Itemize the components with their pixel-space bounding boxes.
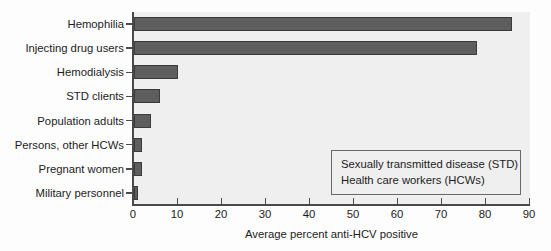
y-tick-mark bbox=[126, 72, 132, 74]
category-label: Military personnel bbox=[0, 187, 124, 199]
category-label: Hemophilia bbox=[0, 18, 124, 30]
x-tick-label: 80 bbox=[465, 208, 505, 220]
note-line-std: Sexually transmitted disease (STD) bbox=[341, 156, 512, 172]
x-tick-label: 90 bbox=[509, 208, 549, 220]
x-tick-label: 50 bbox=[333, 208, 373, 220]
bar bbox=[134, 162, 143, 176]
category-label: Population adults bbox=[0, 115, 124, 127]
bar-row: Hemodialysis bbox=[0, 60, 551, 84]
x-tick-label: 70 bbox=[421, 208, 461, 220]
category-label: Pregnant women bbox=[0, 163, 124, 175]
bar-row: Population adults bbox=[0, 109, 551, 133]
x-tick-label: 0 bbox=[113, 208, 153, 220]
x-axis-title: Average percent anti-HCV positive bbox=[133, 228, 530, 240]
category-label: Hemodialysis bbox=[0, 66, 124, 78]
category-label: Injecting drug users bbox=[0, 42, 124, 54]
x-tick-label: 20 bbox=[201, 208, 241, 220]
y-tick-mark bbox=[126, 168, 132, 170]
bar bbox=[134, 41, 477, 55]
bar bbox=[134, 138, 143, 152]
bar-row: Injecting drug users bbox=[0, 36, 551, 60]
y-tick-mark bbox=[126, 192, 132, 194]
y-tick-mark bbox=[126, 144, 132, 146]
bar bbox=[134, 17, 512, 31]
note-line-hcw: Health care workers (HCWs) bbox=[341, 172, 512, 188]
y-tick-mark bbox=[126, 96, 132, 98]
x-tick-label: 60 bbox=[377, 208, 417, 220]
y-tick-mark bbox=[126, 47, 132, 49]
bar bbox=[134, 65, 178, 79]
note-box: Sexually transmitted disease (STD) Healt… bbox=[331, 150, 521, 195]
bar bbox=[134, 89, 160, 103]
x-tick-label: 10 bbox=[157, 208, 197, 220]
bar bbox=[134, 186, 138, 200]
category-label: STD clients bbox=[0, 90, 124, 102]
y-tick-mark bbox=[126, 120, 132, 122]
x-tick-label: 40 bbox=[289, 208, 329, 220]
y-tick-mark bbox=[126, 23, 132, 25]
bar-row: Hemophilia bbox=[0, 12, 551, 36]
category-label: Persons, other HCWs bbox=[0, 139, 124, 151]
bar bbox=[134, 114, 152, 128]
bar-row: STD clients bbox=[0, 84, 551, 108]
x-tick-label: 30 bbox=[245, 208, 285, 220]
bar-chart: HemophiliaInjecting drug usersHemodialys… bbox=[0, 0, 551, 251]
